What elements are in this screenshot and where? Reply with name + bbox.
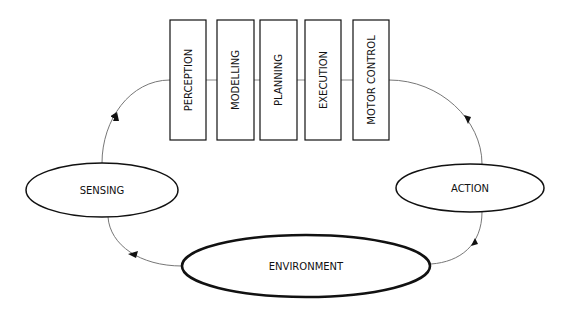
node-action: ACTION	[396, 164, 544, 212]
stage-label: MODELLING	[230, 50, 241, 110]
stage-label: MOTOR CONTROL	[366, 35, 377, 125]
stage-box-perception: PERCEPTION	[170, 20, 206, 140]
stage-box-modelling: MODELLING	[217, 20, 254, 140]
control-loop-diagram: PERCEPTION MODELLING PLANNING EXECUTION …	[0, 0, 567, 314]
stage-box-execution: EXECUTION	[305, 20, 341, 140]
node-label: ENVIRONMENT	[269, 261, 344, 272]
node-label: SENSING	[80, 185, 125, 196]
arrow-sensing-to-perception	[102, 80, 170, 163]
stage-box-planning: PLANNING	[260, 20, 297, 140]
arrow-environment-to-sensing	[108, 217, 182, 266]
node-sensing: SENSING	[26, 163, 178, 217]
arrow-action-to-environment	[431, 212, 482, 264]
stage-label: PERCEPTION	[183, 49, 194, 112]
node-label: ACTION	[451, 183, 489, 194]
stage-box-motor-control: MOTOR CONTROL	[353, 20, 389, 140]
stage-label: EXECUTION	[318, 51, 329, 109]
node-environment: ENVIRONMENT	[182, 235, 430, 297]
stage-label: PLANNING	[273, 54, 284, 106]
